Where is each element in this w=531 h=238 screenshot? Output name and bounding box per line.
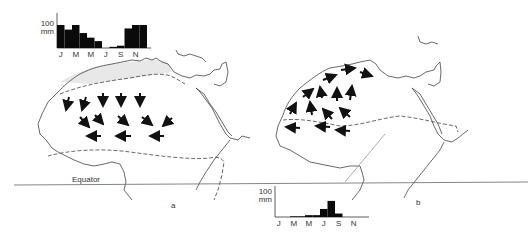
map-a <box>38 50 250 200</box>
month-tick-label: J <box>104 50 108 59</box>
rainfall-bar <box>72 25 80 48</box>
mediterranean-coast-a <box>176 50 206 62</box>
rainfall-bar <box>328 201 336 217</box>
map-b <box>276 36 468 200</box>
rainfall-bar <box>305 215 313 217</box>
panel-b-label: b <box>416 199 420 207</box>
month-tick-label: J <box>322 219 326 228</box>
rainfall-bar <box>335 214 343 217</box>
front-b <box>283 116 458 132</box>
rainfall-bar <box>298 216 306 217</box>
chart-a-ylabel-unit: mm <box>34 28 54 36</box>
equator-label: Equator <box>72 176 100 184</box>
rainfall-bar <box>110 47 118 48</box>
rainfall-bar <box>125 28 133 48</box>
rainfall-bar <box>140 25 148 48</box>
rainfall-bar <box>87 38 95 48</box>
coastline-b <box>276 60 468 200</box>
month-tick-label: N <box>351 219 357 228</box>
rainfall-bar <box>290 216 298 217</box>
month-tick-label: N <box>133 50 139 59</box>
month-tick-label: M <box>87 50 94 59</box>
rainfall-chart-b <box>275 186 369 217</box>
month-tick-label: S <box>118 50 123 59</box>
month-tick-label: M <box>305 219 312 228</box>
wind-arrows-a <box>66 93 172 136</box>
pointer-line-b <box>345 134 385 182</box>
month-tick-label: S <box>336 219 341 228</box>
month-tick-label: M <box>290 219 297 228</box>
rainfall-bar <box>80 33 88 48</box>
mediterranean-coast-b <box>418 36 438 44</box>
rainfall-bar <box>117 46 125 48</box>
rainfall-bar <box>132 25 140 48</box>
rainfall-chart-a <box>57 13 151 48</box>
rainfall-bar <box>313 215 321 217</box>
month-tick-label: M <box>72 50 79 59</box>
panel-a-label: a <box>171 202 175 210</box>
rainfall-bar <box>320 209 328 217</box>
chart-b-ylabel-unit: mm <box>252 196 272 204</box>
rainfall-bar <box>57 25 65 48</box>
month-tick-label: J <box>59 50 63 59</box>
month-tick-label: J <box>277 219 281 228</box>
wind-arrows-b <box>286 68 372 131</box>
rainfall-bar <box>95 41 103 48</box>
rainfall-bar <box>65 30 73 48</box>
